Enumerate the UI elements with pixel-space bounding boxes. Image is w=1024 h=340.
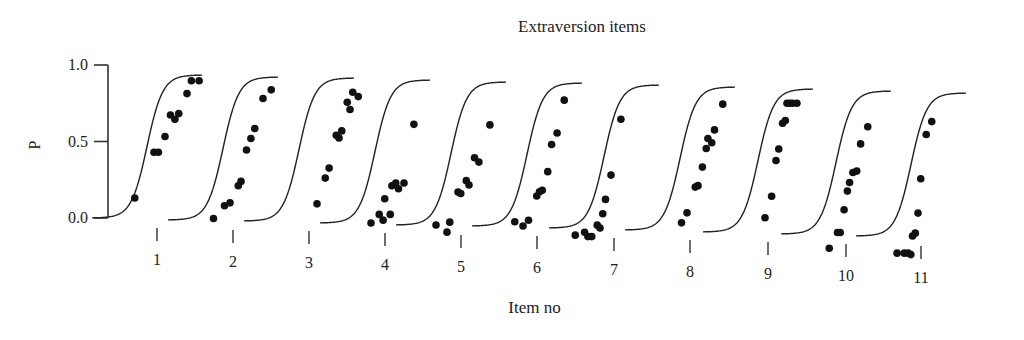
data-point [922,131,930,139]
item-panel-11: 11 [856,93,966,286]
data-point [251,125,259,133]
data-point [907,251,915,259]
data-point [928,118,936,126]
data-point [247,135,255,143]
data-point [917,175,925,183]
data-point [465,181,473,189]
data-point [761,214,769,222]
data-point [325,164,333,172]
data-point [381,195,389,203]
x-tick-label: 10 [838,267,854,284]
item-panel-7: 7 [549,85,659,278]
data-point [519,222,527,230]
data-point [259,95,267,103]
data-point [548,141,556,149]
fitted-curve [549,85,659,228]
data-point [864,123,872,131]
data-point [338,127,346,135]
data-point [793,100,801,108]
data-point [511,218,519,226]
data-point [602,196,610,204]
data-point [683,209,691,217]
item-panel-3: 3 [244,78,362,271]
data-point [379,216,387,224]
icc-chart: 0.00.51.0P1234567891011 [0,0,1024,340]
x-tick-label: 6 [533,259,541,276]
data-point [596,224,604,232]
data-point [188,77,196,85]
y-tick-label: 0.0 [68,209,88,226]
fitted-curve [781,91,891,234]
x-tick-label: 3 [305,254,313,271]
data-point [343,99,351,107]
x-tick-label: 9 [764,265,772,282]
data-point [155,148,163,156]
x-tick-label: 7 [610,261,618,278]
data-point [354,93,362,101]
data-point [844,187,852,195]
data-point [386,211,394,219]
data-point [699,163,707,171]
data-point [210,215,218,223]
data-point [395,185,403,193]
data-point [457,190,465,198]
data-point [443,228,451,236]
fitted-curve [472,83,582,226]
x-tick-label: 1 [153,251,161,268]
y-axis-label: P [26,140,43,149]
data-point [432,221,440,229]
data-point [768,192,776,200]
data-point [772,157,780,165]
data-point [840,206,848,214]
data-point [853,167,861,175]
data-point [825,245,833,253]
x-tick-label: 11 [913,269,928,286]
data-point [313,200,321,208]
data-point [175,110,183,118]
data-point [893,249,901,257]
data-point [410,121,418,129]
x-tick-label: 5 [457,258,465,275]
data-point [719,100,727,108]
item-panel-9: 9 [703,89,813,282]
y-tick-label: 0.5 [68,133,88,150]
data-point [367,219,375,227]
data-point [544,168,552,176]
x-tick-label: 8 [686,263,694,280]
data-point [702,145,710,153]
x-axis-label: Item no [0,298,1024,318]
data-point [131,194,139,202]
fitted-curve [856,93,966,236]
data-point [321,174,329,182]
data-point [267,86,275,94]
fitted-curve [396,82,506,225]
data-point [525,216,533,224]
item-panel-2: 2 [168,77,278,270]
fitted-curve [625,87,735,230]
data-point [335,134,343,142]
data-point [911,229,919,237]
data-point [678,219,686,227]
data-point [161,133,169,141]
data-point [588,233,596,241]
item-panel-5: 5 [396,82,506,275]
data-point [694,182,702,190]
y-axis: 0.00.51.0P [26,56,108,226]
data-point [346,106,354,114]
data-point [226,199,234,207]
item-panel-6: 6 [472,83,582,276]
data-point [237,178,245,186]
data-point [560,96,568,104]
data-point [571,231,579,239]
fitted-curve [703,89,813,232]
x-tick-label: 2 [229,253,237,270]
data-point [846,179,854,187]
item-panel-4: 4 [320,80,430,273]
data-point [475,158,483,166]
data-point [914,209,922,217]
fitted-curve [320,80,430,223]
y-tick-label: 1.0 [68,56,88,73]
data-point [599,210,607,218]
data-point [195,77,203,85]
data-point [857,140,865,148]
